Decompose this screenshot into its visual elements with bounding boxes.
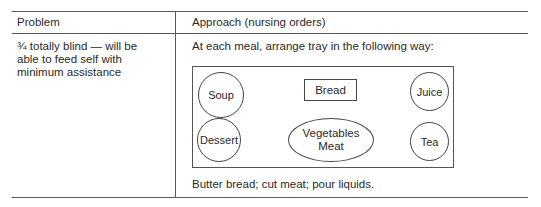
tray-item-bread: Bread <box>304 79 357 101</box>
approach-footer: Butter bread; cut meat; pour liquids. <box>192 178 374 191</box>
tray-item-dessert: Dessert <box>197 118 241 162</box>
header-approach: Approach (nursing orders) <box>192 16 326 29</box>
problem-cell: ¾ totally blind — will be able to feed s… <box>17 40 157 79</box>
header-problem: Problem <box>17 16 60 29</box>
table-top-rule <box>12 11 528 12</box>
approach-intro: At each meal, arrange tray in the follow… <box>192 40 434 53</box>
tray-item-vegetables-meat: Vegetables Meat <box>288 118 374 162</box>
tray-item-tea: Tea <box>410 122 449 161</box>
vegetables-label: Vegetables <box>303 127 360 140</box>
meat-label: Meat <box>318 140 344 153</box>
header-bottom-rule <box>12 33 528 34</box>
tray-diagram: Soup Bread Juice Dessert Vegetables Meat… <box>192 66 454 168</box>
table-bottom-rule <box>12 197 528 198</box>
column-divider <box>175 11 176 198</box>
tray-item-soup: Soup <box>198 72 244 118</box>
tray-item-juice: Juice <box>410 72 449 111</box>
